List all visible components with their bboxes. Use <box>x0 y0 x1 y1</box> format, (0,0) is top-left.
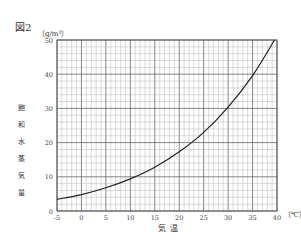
saturation-curve <box>57 40 275 199</box>
plot-border <box>57 40 277 211</box>
x-tick-label: 25 <box>200 214 208 222</box>
y-tick-label: 0 <box>49 208 53 216</box>
x-tick-label: 30 <box>224 214 232 222</box>
x-tick-label: 10 <box>126 214 134 222</box>
y-tick-label: 10 <box>45 173 53 181</box>
y-tick-label: 40 <box>45 71 53 79</box>
x-tick-label: 0 <box>79 214 83 222</box>
y-tick-label: 50 <box>45 37 53 45</box>
x-tick-label: 35 <box>248 214 256 222</box>
x-tick-label: 15 <box>151 214 159 222</box>
x-tick-label: 5 <box>104 214 108 222</box>
y-tick-label: 30 <box>45 105 53 113</box>
chart-plot: -5051015202530354001020304050 <box>0 0 301 249</box>
x-tick-label: 20 <box>175 214 183 222</box>
y-tick-label: 20 <box>45 139 53 147</box>
x-tick-label: 40 <box>273 214 281 222</box>
x-tick-label: -5 <box>54 214 60 222</box>
